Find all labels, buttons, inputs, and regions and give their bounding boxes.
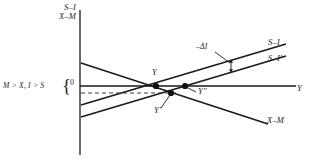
- curve-label-s-minus-i-prime: S–I′: [268, 54, 282, 63]
- equilibrium-point-y-prime: [168, 90, 174, 96]
- delta-i-label: –ΔI: [196, 43, 207, 51]
- equilibrium-label-y-prime: Y′: [154, 106, 161, 115]
- horizontal-axis-label: Y: [297, 84, 302, 93]
- curve-label-s-minus-i: S–I: [268, 38, 280, 47]
- region-inequality-label: M > X, I > S: [3, 82, 44, 90]
- diagram-svg: [0, 0, 313, 160]
- equilibrium-point-y-double-prime: [182, 83, 188, 89]
- origin-label: 0: [70, 78, 74, 87]
- equilibrium-point-y: [153, 83, 159, 89]
- curve-label-x-minus-m: X–M: [267, 116, 284, 125]
- delta-i-leader-line: [215, 52, 230, 63]
- equilibrium-label-y: Y: [152, 68, 157, 77]
- vertical-axis-label: S–I X–M: [36, 3, 76, 21]
- diagram-canvas: S–I X–M M > X, I > S { 0 –ΔI S–I S–I′ X–…: [0, 0, 313, 160]
- y-prime-leader-line: [161, 95, 170, 108]
- vertical-axis-label-line2: X–M: [36, 12, 76, 21]
- equilibrium-label-y-double-prime: Y″: [198, 87, 207, 96]
